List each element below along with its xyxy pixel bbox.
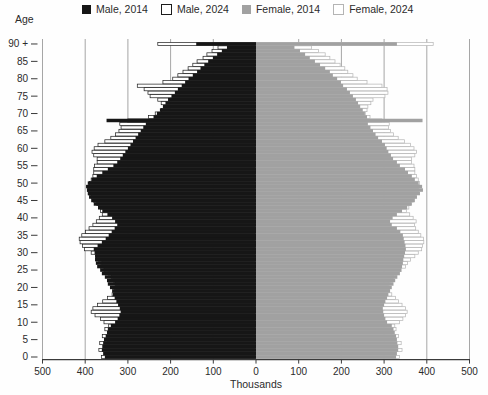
y-tick-label: 20 — [17, 282, 29, 293]
x-tick-label: 300 — [120, 366, 137, 377]
y-tick-label: 80 — [17, 73, 29, 84]
y-tick-label: 10 — [17, 317, 29, 328]
y-tick-label: 55 — [17, 160, 29, 171]
y-tick-label: 85 — [17, 56, 29, 67]
y-tick-label: 30 — [17, 247, 29, 258]
population-pyramid-chart: 5004003002001000100200300400500051015202… — [0, 0, 488, 395]
x-axis-title: Thousands — [226, 378, 286, 390]
population-pyramid-figure: Male, 2014Male, 2024Female, 2014Female, … — [0, 0, 488, 395]
y-tick-label: 70 — [17, 108, 29, 119]
y-tick-label: 0 — [22, 351, 28, 362]
y-tick-label: 45 — [17, 195, 29, 206]
x-tick-label: 300 — [376, 366, 393, 377]
x-tick-label: 100 — [290, 366, 307, 377]
x-tick-label: 200 — [333, 366, 350, 377]
x-tick-label: 100 — [205, 366, 222, 377]
x-tick-label: 400 — [418, 366, 435, 377]
y-tick-label: 15 — [17, 299, 29, 310]
y-tick-label: 25 — [17, 264, 29, 275]
x-tick-label: 200 — [162, 366, 179, 377]
y-tick-label: 50 — [17, 178, 29, 189]
y-tick-label: 75 — [17, 91, 29, 102]
y-axis: 051015202530354045505560657075808590 + — [8, 38, 37, 362]
y-tick-label: 90 + — [8, 38, 28, 49]
y-tick-label: 40 — [17, 212, 29, 223]
y-tick-label: 60 — [17, 143, 29, 154]
y-tick-label: 5 — [22, 334, 28, 345]
y-tick-label: 65 — [17, 125, 29, 136]
x-axis: 5004003002001000100200300400500 — [34, 360, 478, 377]
x-tick-label: 0 — [253, 366, 259, 377]
x-tick-label: 500 — [34, 366, 51, 377]
x-tick-label: 500 — [461, 366, 478, 377]
x-tick-label: 400 — [77, 366, 94, 377]
y-tick-label: 35 — [17, 230, 29, 241]
